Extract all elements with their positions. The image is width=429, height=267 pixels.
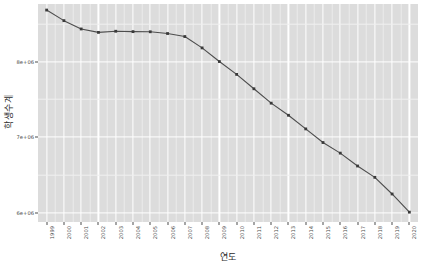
x-tick-mark <box>288 222 289 225</box>
data-point <box>97 31 100 34</box>
data-point <box>356 165 359 168</box>
y-axis-title-label: 학생수계 <box>2 94 15 128</box>
data-point <box>183 35 186 38</box>
x-tick-mark <box>374 222 375 225</box>
x-tick-mark <box>63 222 64 225</box>
data-point <box>201 47 204 50</box>
x-tick-label: 2019 <box>394 226 400 239</box>
data-point <box>391 193 394 196</box>
x-tick-mark <box>81 222 82 225</box>
x-tick-label: 2005 <box>152 226 158 239</box>
x-tick-label: 2007 <box>187 226 193 239</box>
data-point <box>235 73 238 76</box>
x-tick-mark <box>115 222 116 225</box>
data-point <box>80 28 83 31</box>
plot-panel <box>38 4 418 222</box>
x-tick-mark <box>236 222 237 225</box>
data-point <box>132 30 135 33</box>
series-polyline <box>47 10 410 212</box>
x-axis-title: 연도 <box>38 250 418 263</box>
x-tick-mark <box>271 222 272 225</box>
data-point <box>304 128 307 131</box>
data-point <box>149 30 152 33</box>
x-tick-label: 2002 <box>100 226 106 239</box>
x-tick-label: 2006 <box>170 226 176 239</box>
x-tick-mark <box>392 222 393 225</box>
x-tick-mark <box>323 222 324 225</box>
x-tick-label: 2000 <box>66 226 72 239</box>
x-tick-mark <box>133 222 134 225</box>
x-tick-label: 1999 <box>49 226 55 239</box>
series-line-학생수계 <box>38 4 418 222</box>
x-tick-label: 2010 <box>239 226 245 239</box>
data-point <box>270 102 273 105</box>
x-tick-mark <box>98 222 99 225</box>
series-data-points <box>45 9 411 214</box>
data-point <box>114 30 117 33</box>
data-point <box>408 211 411 214</box>
x-tick-label: 2016 <box>342 226 348 239</box>
data-point <box>253 87 256 90</box>
x-tick-label: 2003 <box>118 226 124 239</box>
data-point <box>322 141 325 144</box>
x-tick-label: 2001 <box>83 226 89 239</box>
x-tick-mark <box>340 222 341 225</box>
y-tick-label: 6e+06 <box>14 210 34 216</box>
x-tick-mark <box>184 222 185 225</box>
x-tick-mark <box>46 222 47 225</box>
x-tick-mark <box>167 222 168 225</box>
x-tick-label: 2009 <box>221 226 227 239</box>
x-tick-label: 2018 <box>377 226 383 239</box>
x-tick-label: 2013 <box>290 226 296 239</box>
y-tick-label: 8e+06 <box>14 59 34 65</box>
y-tick-label: 7e+06 <box>14 134 34 140</box>
x-tick-label: 2004 <box>135 226 141 239</box>
x-tick-label: 2020 <box>411 226 417 239</box>
x-tick-mark <box>219 222 220 225</box>
x-tick-label: 2012 <box>273 226 279 239</box>
x-axis-ticks: 1999200020012002200320042005200620072008… <box>38 222 418 248</box>
data-point <box>287 114 290 117</box>
x-tick-label: 2017 <box>360 226 366 239</box>
data-point <box>63 19 66 22</box>
x-tick-mark <box>357 222 358 225</box>
y-axis-ticks: 8e+067e+066e+06 <box>14 0 34 267</box>
x-tick-mark <box>150 222 151 225</box>
x-tick-label: 2014 <box>308 226 314 239</box>
x-tick-label: 2011 <box>256 226 262 239</box>
x-tick-label: 2008 <box>204 226 210 239</box>
data-point <box>166 32 169 35</box>
data-point <box>218 60 221 63</box>
data-point <box>373 176 376 179</box>
x-tick-mark <box>202 222 203 225</box>
line-chart: 학생수계 8e+067e+066e+06 1999200020012002200… <box>0 0 429 267</box>
x-tick-mark <box>305 222 306 225</box>
data-point <box>45 9 48 12</box>
x-tick-mark <box>253 222 254 225</box>
x-tick-mark <box>409 222 410 225</box>
data-point <box>339 152 342 155</box>
x-tick-label: 2015 <box>325 226 331 239</box>
